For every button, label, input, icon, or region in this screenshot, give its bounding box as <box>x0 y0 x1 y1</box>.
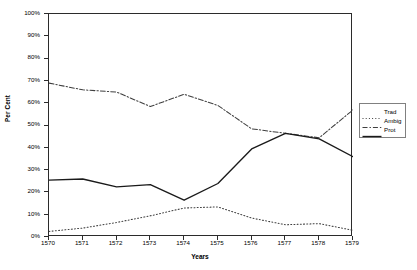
x-tick-label: 1570 <box>31 240 65 246</box>
y-tick-label: 0% <box>14 233 40 239</box>
y-tick-label: 80% <box>14 54 40 60</box>
legend-label: Trad <box>384 108 397 115</box>
y-tick-label: 20% <box>14 188 40 194</box>
x-tick-label: 1575 <box>200 240 234 246</box>
legend-label: Ambig <box>384 117 402 124</box>
y-tick-label: 60% <box>14 99 40 105</box>
y-tick-label: 30% <box>14 166 40 172</box>
legend-swatch-prot-icon <box>362 126 382 133</box>
series-lines <box>49 14 353 237</box>
x-tick-label: 1572 <box>99 240 133 246</box>
x-tick-label: 1577 <box>267 240 301 246</box>
series-line-ambig <box>49 83 353 138</box>
x-tick-label: 1574 <box>166 240 200 246</box>
plot-area <box>48 13 352 236</box>
x-tick-label: 1578 <box>301 240 335 246</box>
legend-label: Prot <box>384 126 395 133</box>
y-tick-label: 50% <box>14 121 40 127</box>
chart-legend: TradAmbigProt <box>359 103 406 138</box>
chart-container: Per Cent 0%10%20%30%40%50%60%70%80%90%10… <box>0 0 417 270</box>
legend-item-trad[interactable]: Trad <box>362 107 402 116</box>
y-tick-label: 90% <box>14 32 40 38</box>
x-tick-label: 1579 <box>335 240 369 246</box>
legend-swatch-ambig-icon <box>362 117 382 124</box>
series-line-prot <box>49 133 353 200</box>
legend-item-prot[interactable]: Prot <box>362 125 402 134</box>
y-tick-label: 100% <box>14 10 40 16</box>
series-line-trad <box>49 207 353 232</box>
x-axis-title: Years <box>0 253 400 260</box>
x-tick-label: 1571 <box>65 240 99 246</box>
x-tick-label: 1576 <box>234 240 268 246</box>
y-tick-label: 10% <box>14 211 40 217</box>
x-tick-label: 1573 <box>132 240 166 246</box>
legend-item-ambig[interactable]: Ambig <box>362 116 402 125</box>
y-axis-title: Per Cent <box>4 83 11 135</box>
y-tick-label: 70% <box>14 77 40 83</box>
y-tick-label: 40% <box>14 144 40 150</box>
legend-swatch-trad-icon <box>362 108 382 115</box>
